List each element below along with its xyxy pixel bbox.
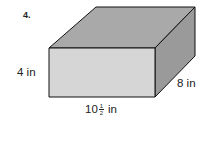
width-whole: 10 [85,103,98,115]
width-fraction: 12 [99,103,104,116]
width-unit: in [108,103,117,115]
fraction-denominator: 2 [100,110,103,116]
depth-label: 8 in [177,77,196,89]
width-label: 1012 in [85,103,117,116]
front-face [49,48,155,97]
height-label: 4 in [17,66,36,78]
